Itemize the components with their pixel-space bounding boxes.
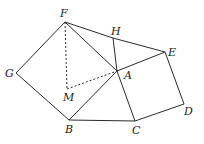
geometry-diagram: F G H E A M B C D: [0, 0, 204, 144]
segment-FH: [65, 22, 113, 38]
label-G: G: [5, 67, 14, 80]
label-D: D: [183, 105, 193, 118]
label-B: B: [64, 123, 73, 136]
segment-HE: [113, 38, 165, 52]
segment-HA: [113, 38, 117, 71]
label-M: M: [62, 91, 75, 104]
segment-GB: [16, 73, 69, 120]
solid-segments: [16, 22, 184, 121]
point-labels: F G H E A M B C D: [5, 7, 193, 137]
label-A: A: [123, 69, 132, 82]
label-H: H: [110, 25, 121, 38]
segment-FM: [65, 22, 67, 89]
segment-FG: [16, 22, 65, 73]
segment-MA: [67, 71, 117, 89]
segment-AF: [65, 22, 117, 71]
segment-BA: [69, 71, 117, 120]
segment-CB: [69, 120, 135, 121]
label-F: F: [59, 7, 68, 20]
label-E: E: [167, 46, 176, 59]
segment-DC: [135, 104, 184, 121]
label-C: C: [132, 124, 141, 137]
segment-ED: [165, 52, 184, 104]
